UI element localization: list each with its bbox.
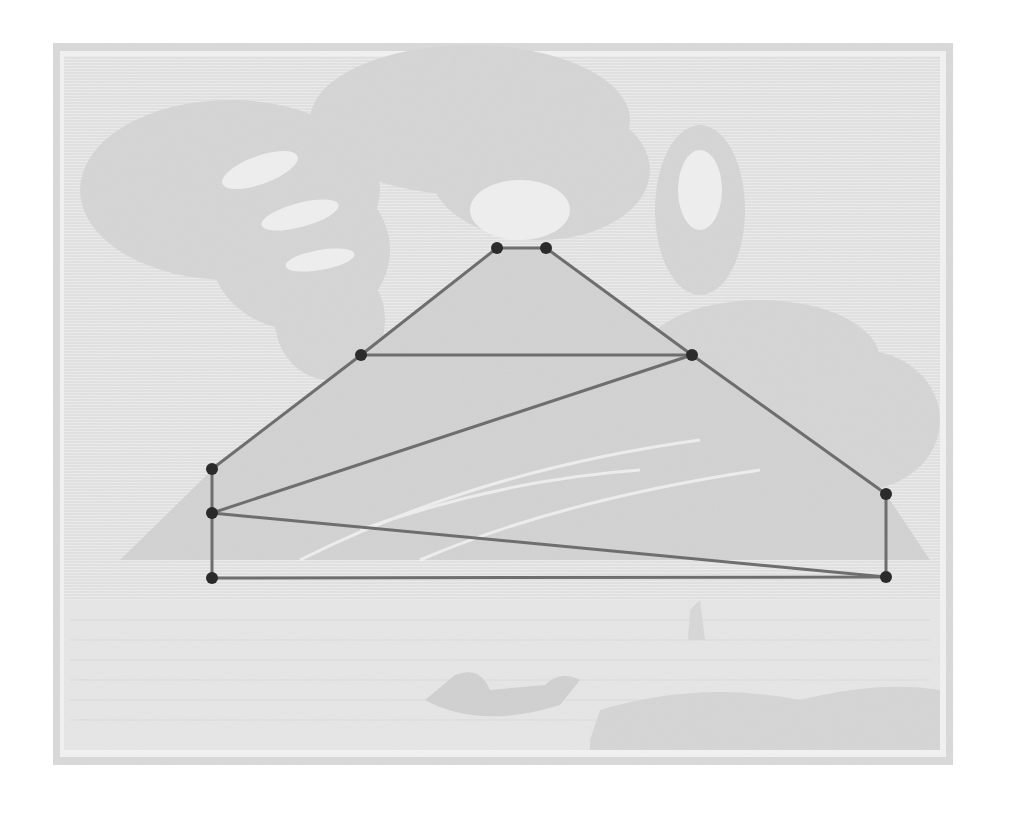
- vertex-point-H: [880, 488, 892, 500]
- engraving-grain: [53, 43, 953, 765]
- vertex-point-E: [206, 463, 218, 475]
- vertex-point-C: [355, 349, 367, 361]
- vertex-point-B: [540, 242, 552, 254]
- vertex-point-G: [206, 572, 218, 584]
- engraving-background: [53, 43, 953, 765]
- volcano-diagram-canvas: [0, 0, 1014, 814]
- vertex-point-I: [880, 571, 892, 583]
- vertex-point-F: [206, 507, 218, 519]
- vertex-point-D: [686, 349, 698, 361]
- edge-G-I: [212, 577, 886, 578]
- vertex-point-A: [491, 242, 503, 254]
